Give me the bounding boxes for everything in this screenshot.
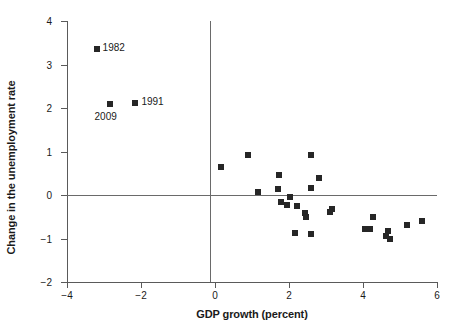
y-tick-label-0: −2	[41, 277, 52, 288]
x-tick-label-5: 6	[434, 290, 440, 301]
data-point	[419, 218, 425, 224]
x-tick-2	[215, 282, 216, 288]
y-tick-label-6: 4	[46, 16, 52, 27]
y-tick-2: 0	[61, 195, 67, 196]
x-tick-3	[289, 282, 290, 288]
y-axis-title: Change in the unemployment rate	[0, 0, 22, 335]
x-tick-label-4: 4	[360, 290, 366, 301]
data-point	[292, 230, 298, 236]
data-point	[275, 186, 281, 192]
x-tick-label-0: −4	[61, 290, 72, 301]
data-point	[367, 226, 373, 232]
zero-line-vertical	[210, 21, 211, 282]
x-tick-label-2: 0	[212, 290, 218, 301]
y-tick-6: 4	[61, 21, 67, 22]
point-label-2009: 2009	[95, 111, 117, 122]
y-axis-spine	[67, 21, 68, 283]
x-axis-title: GDP growth (percent)	[67, 308, 437, 320]
y-tick-1: −1	[61, 239, 67, 240]
data-point	[308, 152, 314, 158]
data-point	[294, 203, 300, 209]
data-point	[316, 175, 322, 181]
data-point	[308, 185, 314, 191]
data-point-2009	[107, 101, 113, 107]
data-point	[284, 202, 290, 208]
x-tick-4	[363, 282, 364, 288]
y-tick-label-4: 2	[46, 103, 52, 114]
data-point	[404, 222, 410, 228]
data-point	[329, 206, 335, 212]
data-point	[370, 214, 376, 220]
x-tick-1	[141, 282, 142, 288]
x-tick-5	[437, 282, 438, 288]
y-tick-3: 1	[61, 152, 67, 153]
point-label-1982: 1982	[103, 42, 125, 53]
data-point	[387, 236, 393, 242]
data-point	[303, 214, 309, 220]
plot-area: −2−101234 −4−20246 198220091991	[67, 21, 437, 283]
data-point	[255, 189, 261, 195]
data-point	[245, 152, 251, 158]
y-tick-label-3: 1	[46, 146, 52, 157]
data-point	[276, 172, 282, 178]
x-tick-0	[67, 282, 68, 288]
x-tick-label-3: 2	[286, 290, 292, 301]
point-label-1991: 1991	[141, 96, 163, 107]
x-tick-label-1: −2	[135, 290, 146, 301]
scatter-chart-figure: Change in the unemployment rate −2−10123…	[0, 0, 465, 335]
data-point	[385, 228, 391, 234]
data-point	[218, 164, 224, 170]
data-point-1991	[132, 100, 138, 106]
y-tick-4: 2	[61, 108, 67, 109]
y-tick-label-5: 3	[46, 59, 52, 70]
data-point	[308, 231, 314, 237]
x-axis-spine	[67, 282, 437, 283]
y-tick-5: 3	[61, 65, 67, 66]
data-point-1982	[94, 46, 100, 52]
data-point	[278, 199, 284, 205]
data-point	[287, 194, 293, 200]
y-tick-label-2: 0	[46, 190, 52, 201]
y-tick-label-1: −1	[41, 233, 52, 244]
zero-line-horizontal	[67, 195, 437, 196]
